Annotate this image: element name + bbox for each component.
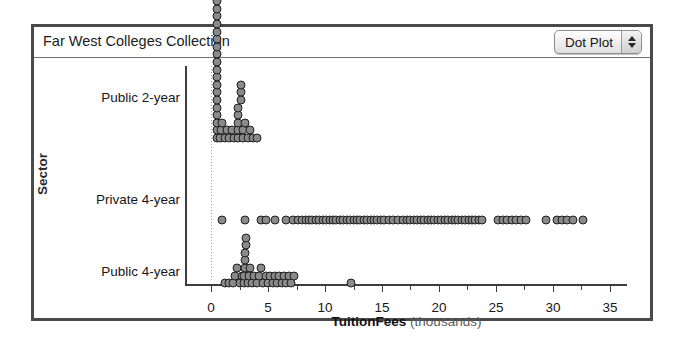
x-tick-label-0: 0 xyxy=(207,300,215,315)
data-point[interactable] xyxy=(261,215,270,224)
data-point[interactable] xyxy=(478,215,487,224)
plot-type-select[interactable]: Dot Plot xyxy=(554,30,642,54)
x-axis-tick-labels: 05101520253035 xyxy=(186,292,627,310)
data-point[interactable] xyxy=(542,215,551,224)
x-axis-title: TuitionFees (thousands) xyxy=(186,314,627,329)
x-tick-minor xyxy=(524,286,525,290)
data-point[interactable] xyxy=(241,215,250,224)
x-tick-label-6: 30 xyxy=(545,300,560,315)
data-point[interactable] xyxy=(569,215,578,224)
data-point[interactable] xyxy=(242,233,251,242)
x-tick-label-5: 25 xyxy=(488,300,503,315)
collection-title: Far West Colleges Collection xyxy=(43,33,230,49)
x-tick-minor xyxy=(240,286,241,290)
plot-container: Sector Public 2-yearPrivate 4-yearPublic… xyxy=(34,58,650,318)
x-tick-label-4: 20 xyxy=(431,300,446,315)
data-point[interactable] xyxy=(252,134,261,143)
x-tick-label-1: 5 xyxy=(264,300,272,315)
data-point[interactable] xyxy=(270,215,279,224)
y-axis-label-1: Private 4-year xyxy=(96,192,180,207)
x-tick-minor xyxy=(410,286,411,290)
data-point[interactable] xyxy=(521,215,530,224)
window-titlebar: Far West Colleges Collection Dot Plot xyxy=(34,27,650,58)
data-point[interactable] xyxy=(290,271,299,280)
data-point[interactable] xyxy=(218,215,227,224)
x-tick-label-3: 15 xyxy=(374,300,389,315)
y-axis-category-labels: Public 2-yearPrivate 4-yearPublic 4-year xyxy=(34,66,180,281)
data-point[interactable] xyxy=(578,215,587,224)
data-point[interactable] xyxy=(234,103,243,112)
x-tick-minor xyxy=(297,286,298,290)
plot-type-stepper[interactable] xyxy=(621,31,641,53)
x-tick-minor xyxy=(581,286,582,290)
x-axis-title-units: (thousands) xyxy=(410,314,481,329)
data-point[interactable] xyxy=(236,80,245,89)
x-tick-minor xyxy=(354,286,355,290)
plot-type-label: Dot Plot xyxy=(555,35,621,50)
x-axis-title-main: TuitionFees xyxy=(332,314,407,329)
y-axis-label-2: Public 4-year xyxy=(101,264,180,279)
y-axis-label-0: Public 2-year xyxy=(101,90,180,105)
chevron-up-icon[interactable] xyxy=(628,36,636,41)
x-tick-minor xyxy=(467,286,468,290)
data-points-area xyxy=(186,66,627,281)
x-tick-label-7: 35 xyxy=(602,300,617,315)
x-tick-label-2: 10 xyxy=(318,300,333,315)
chart-window: Far West Colleges Collection Dot Plot Se… xyxy=(31,24,653,321)
chevron-down-icon[interactable] xyxy=(628,43,636,48)
